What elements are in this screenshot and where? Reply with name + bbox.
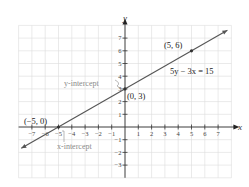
point-label-neg5-0: (−5, 0) xyxy=(24,116,47,126)
y-tick-label: −3 xyxy=(115,161,122,168)
y-tick-label: 2 xyxy=(118,98,121,105)
y-tick-label: 5 xyxy=(118,60,121,67)
y-tick-label: −1 xyxy=(115,136,122,143)
y-tick-label: −2 xyxy=(115,149,122,156)
x-tick-label: −5 xyxy=(55,130,62,137)
x-tick-label: −3 xyxy=(82,130,89,137)
coordinate-plane: −7−6−5−4−3−2−11234567−3−2−11234567 y x (… xyxy=(0,0,249,187)
data-point xyxy=(57,125,60,128)
x-tick-label: 6 xyxy=(203,130,207,137)
x-tick-label: −2 xyxy=(95,130,102,137)
y-tick-label: 1 xyxy=(118,111,121,118)
x-tick-label: 7 xyxy=(216,130,220,137)
data-point xyxy=(190,49,193,52)
x-tick-label: 1 xyxy=(137,130,140,137)
x-intercept-label: x-intercept xyxy=(57,142,92,151)
x-tick-label: −7 xyxy=(28,130,36,137)
x-intercept-bracket-icon xyxy=(62,131,64,142)
x-tick-label: 5 xyxy=(190,130,193,137)
x-tick-label: 3 xyxy=(163,130,166,137)
y-intercept-label: y-intercept xyxy=(64,79,99,88)
y-axis-label: y xyxy=(122,13,127,23)
x-tick-label: −4 xyxy=(68,130,76,137)
point-label-5-6: (5, 6) xyxy=(164,40,183,50)
x-tick-label: 2 xyxy=(150,130,153,137)
x-tick-label: 4 xyxy=(177,130,181,137)
point-label-0-3: (0, 3) xyxy=(127,91,146,101)
equation-label: 5y − 3x = 15 xyxy=(170,66,214,76)
x-axis-label: x xyxy=(237,122,242,132)
